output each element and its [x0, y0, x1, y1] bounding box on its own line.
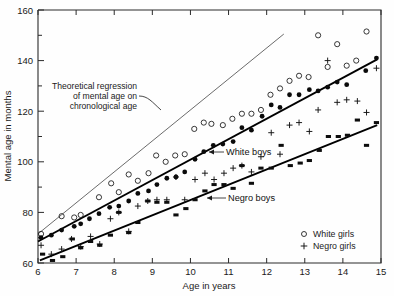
y-tick-label: 80 — [22, 207, 33, 218]
point-small-square — [298, 162, 303, 165]
point-small-square — [231, 187, 236, 190]
x-tick-label: 10 — [185, 266, 196, 277]
white-boys-label: White boys — [226, 147, 272, 157]
point-small-square — [317, 149, 322, 152]
point-filled-circle — [211, 143, 216, 148]
point-filled-circle — [39, 235, 44, 240]
point-filled-circle — [220, 142, 225, 147]
point-filled-circle — [126, 199, 131, 204]
point-small-square — [78, 246, 83, 249]
point-filled-circle — [59, 228, 64, 233]
y-tick-label: 100 — [17, 156, 33, 167]
point-filled-circle — [239, 125, 244, 130]
theory-note-line-1: Theoretical regression — [52, 81, 137, 91]
point-filled-circle — [363, 68, 368, 73]
point-filled-circle — [297, 92, 302, 97]
x-tick-label: 12 — [261, 266, 272, 277]
x-axis-title: Age in years — [183, 280, 236, 291]
point-small-square — [307, 159, 312, 162]
point-filled-circle — [72, 224, 77, 229]
point-filled-circle — [325, 85, 330, 90]
point-small-square — [288, 164, 293, 167]
y-tick-label: 60 — [22, 258, 33, 269]
point-filled-circle — [193, 157, 198, 162]
point-filled-circle — [278, 105, 283, 110]
x-tick-label: 15 — [376, 266, 387, 277]
point-small-square — [126, 231, 131, 234]
point-small-square — [239, 164, 244, 167]
point-filled-circle — [374, 56, 379, 61]
point-filled-circle — [249, 128, 254, 133]
point-filled-circle — [107, 205, 112, 210]
point-filled-circle — [335, 80, 340, 85]
point-filled-circle — [116, 204, 121, 209]
point-small-square — [192, 198, 197, 201]
point-small-square — [374, 121, 379, 124]
theory-note-line-3: chronological age — [70, 101, 138, 111]
point-filled-circle — [164, 176, 169, 181]
point-filled-circle — [155, 182, 160, 187]
x-tick-label: 11 — [224, 266, 234, 277]
legend-label-negro-girls: Negro girls — [313, 241, 356, 251]
point-small-square — [211, 183, 216, 186]
x-tick-label: 8 — [112, 266, 117, 277]
point-filled-circle — [182, 170, 187, 175]
point-small-square — [116, 211, 121, 214]
point-small-square — [249, 182, 254, 185]
point-filled-circle — [344, 82, 349, 87]
point-filled-circle — [316, 89, 321, 94]
point-filled-circle — [78, 221, 83, 226]
point-filled-circle — [307, 87, 312, 92]
point-small-square — [135, 221, 140, 224]
x-tick-label: 14 — [338, 266, 349, 277]
point-small-square — [88, 240, 93, 243]
point-filled-circle — [269, 102, 274, 107]
point-filled-circle — [49, 233, 54, 238]
point-filled-circle — [146, 188, 151, 193]
scatter-plot: 6789101112131415 6080100120140160 Age in… — [0, 0, 394, 296]
point-filled-circle — [97, 211, 102, 216]
point-small-square — [345, 134, 350, 137]
point-small-square — [70, 237, 75, 240]
point-small-square — [50, 259, 55, 262]
x-tick-label: 6 — [35, 266, 40, 277]
point-small-square — [355, 119, 360, 122]
point-filled-circle — [287, 92, 292, 97]
point-small-square — [145, 200, 150, 203]
point-small-square — [108, 234, 113, 237]
x-tick-label: 9 — [150, 266, 155, 277]
point-small-square — [164, 201, 169, 204]
point-filled-circle — [260, 114, 265, 119]
point-small-square — [97, 244, 102, 247]
point-small-square — [364, 144, 369, 147]
point-filled-circle — [201, 149, 206, 154]
x-tick-label: 7 — [73, 266, 78, 277]
point-small-square — [173, 213, 178, 216]
point-small-square — [269, 167, 274, 170]
point-small-square — [279, 144, 284, 147]
y-tick-label: 160 — [17, 5, 33, 16]
negro-boys-label: Negro boys — [228, 193, 275, 203]
x-tick-label: 13 — [299, 266, 310, 277]
theory-note-line-2: of mental age on — [73, 91, 137, 101]
point-small-square — [60, 255, 65, 258]
point-small-square — [154, 201, 159, 204]
point-small-square — [202, 189, 207, 192]
point-small-square — [258, 167, 263, 170]
point-small-square — [183, 207, 188, 210]
point-filled-circle — [87, 216, 92, 221]
y-tick-label: 140 — [17, 55, 33, 66]
point-small-square — [326, 135, 331, 138]
legend-label-white-girls: White girls — [313, 229, 355, 239]
point-small-square — [40, 253, 45, 256]
point-filled-circle — [135, 191, 140, 196]
y-tick-label: 120 — [17, 106, 33, 117]
y-axis-title: Mental age in months — [2, 90, 13, 181]
point-small-square — [336, 135, 341, 138]
point-filled-circle — [231, 139, 236, 144]
point-small-square — [221, 183, 226, 186]
chart-figure: 6789101112131415 6080100120140160 Age in… — [0, 0, 394, 296]
